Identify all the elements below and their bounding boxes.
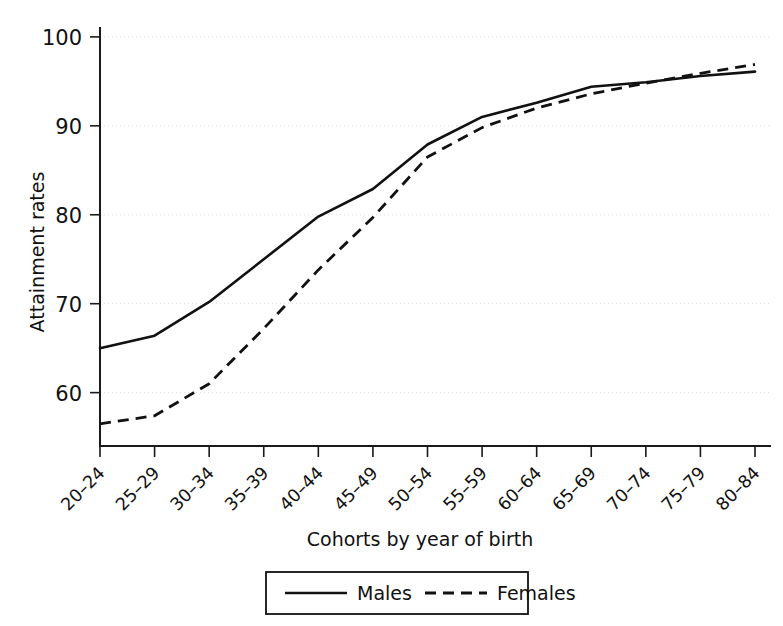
series-line-males — [100, 72, 755, 349]
y-axis-ticks: 60708090100 — [42, 26, 100, 406]
x-tick-label: 40–44 — [275, 463, 327, 515]
line-chart: 60708090100 20–2425–2930–3435–3940–4445–… — [0, 0, 783, 626]
legend-label-females: Females — [497, 582, 576, 604]
x-tick-label: 75–79 — [657, 463, 709, 515]
x-axis-ticks: 20–2425–2930–3435–3940–4445–4950–5455–59… — [57, 446, 764, 515]
series-line-females — [100, 64, 755, 423]
y-tick-label: 70 — [55, 293, 82, 317]
gridlines — [100, 37, 770, 393]
chart-figure: 60708090100 20–2425–2930–3435–3940–4445–… — [0, 0, 783, 626]
x-tick-label: 80–84 — [712, 463, 764, 515]
x-tick-label: 20–24 — [57, 463, 109, 515]
y-tick-label: 100 — [42, 26, 82, 50]
x-tick-label: 50–54 — [384, 463, 436, 515]
chart-legend: Males Females — [266, 572, 576, 614]
x-tick-label: 45–49 — [330, 463, 382, 515]
x-tick-label: 70–74 — [603, 463, 655, 515]
y-tick-label: 90 — [55, 115, 82, 139]
x-tick-label: 60–64 — [494, 463, 546, 515]
x-tick-label: 35–39 — [221, 463, 273, 515]
x-axis-title: Cohorts by year of birth — [307, 528, 534, 550]
y-axis-title: Attainment rates — [26, 172, 48, 333]
x-tick-label: 55–59 — [439, 463, 491, 515]
y-tick-label: 60 — [55, 382, 82, 406]
x-tick-label: 25–29 — [112, 463, 164, 515]
legend-label-males: Males — [357, 582, 412, 604]
x-tick-label: 30–34 — [166, 463, 218, 515]
x-tick-label: 65–69 — [548, 463, 600, 515]
y-tick-label: 80 — [55, 204, 82, 228]
